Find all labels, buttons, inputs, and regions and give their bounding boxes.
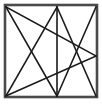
star-polygon-diagram <box>0 0 102 104</box>
diagram-background <box>0 0 102 104</box>
figure-container <box>0 0 102 104</box>
